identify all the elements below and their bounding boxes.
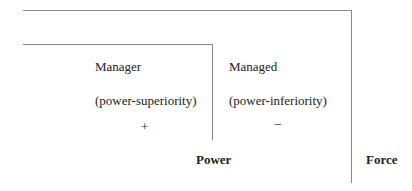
managed-sign: − (274, 118, 281, 131)
force-label: Force (366, 153, 398, 166)
power-label: Power (196, 153, 231, 166)
force-boundary-top (23, 10, 352, 11)
manager-subtitle: (power-superiority) (95, 94, 197, 107)
power-boundary-top (23, 44, 213, 45)
manager-sign: + (141, 120, 148, 133)
managed-subtitle: (power-inferiority) (229, 94, 327, 107)
force-boundary-right (351, 10, 352, 183)
manager-title: Manager (95, 60, 141, 73)
power-boundary-right (212, 44, 213, 140)
managed-title: Managed (229, 60, 277, 73)
